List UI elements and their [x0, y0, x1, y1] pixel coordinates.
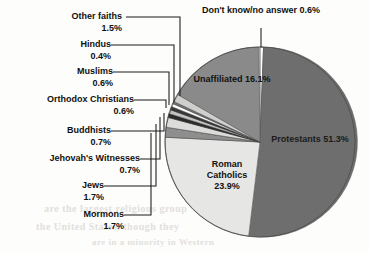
callout-name-buddhists: Buddhists — [67, 125, 111, 135]
pie-chart-figure: are the largest religious group the Unit… — [0, 0, 369, 253]
callout-label-jews: Jews 1.7% — [82, 180, 104, 203]
callout-label-hindus: Hindus 0.4% — [81, 39, 112, 62]
callout-label-buddhists: Buddhists 0.7% — [67, 125, 111, 148]
callout-pct-other-faiths: 1.5% — [71, 23, 122, 35]
leader-line-jehovahs-witnesses — [140, 117, 160, 159]
slice-name-unaffiliated: Unaffiliated — [193, 74, 242, 84]
callout-pct-mormons: 1.7% — [84, 221, 125, 233]
slice-pct-protestants: 51.3% — [323, 134, 349, 144]
callout-name-mormons: Mormons — [84, 209, 125, 219]
callout-name-dont-know: Don't know/no answer — [202, 5, 297, 15]
slice-label-unaffiliated: Unaffiliated 16.1% — [186, 74, 278, 85]
callout-pct-buddhists: 0.7% — [67, 137, 111, 149]
leader-line-other-faiths — [126, 17, 180, 96]
slice-name-roman-catholics-line2: Catholics — [185, 170, 269, 181]
callout-label-mormons: Mormons 1.7% — [84, 209, 125, 232]
slice-name-protestants: Protestants — [271, 134, 321, 144]
callout-name-hindus: Hindus — [81, 39, 112, 49]
callout-name-orthodox-christians: Orthodox Christians — [47, 94, 134, 104]
callout-label-jehovahs-witnesses: Jehovah's Witnesses 0.7% — [49, 153, 140, 176]
leader-line-orthodox-christians — [134, 100, 166, 108]
callout-name-muslims: Muslims — [77, 66, 113, 76]
callout-pct-dont-know: 0.6% — [300, 5, 321, 15]
callout-pct-muslims: 0.6% — [77, 78, 113, 90]
pie-chart-graphic — [0, 0, 369, 253]
slice-pct-unaffiliated: 16.1% — [245, 74, 271, 84]
callout-name-jews: Jews — [82, 180, 104, 190]
slice-label-roman-catholics: Roman Catholics 23.9% — [185, 159, 269, 192]
slice-pct-roman-catholics: 23.9% — [214, 181, 240, 191]
callout-label-other-faiths: Other faiths 1.5% — [71, 11, 122, 34]
callout-pct-jews: 1.7% — [82, 192, 104, 204]
slice-label-protestants: Protestants 51.3% — [268, 134, 352, 145]
callout-label-dont-know: Don't know/no answer 0.6% — [191, 5, 331, 17]
callout-name-other-faiths: Other faiths — [71, 11, 122, 21]
callout-name-jehovahs-witnesses: Jehovah's Witnesses — [49, 153, 140, 163]
callout-label-muslims: Muslims 0.6% — [77, 66, 113, 89]
callout-pct-hindus: 0.4% — [81, 51, 112, 63]
callout-label-orthodox-christians: Orthodox Christians 0.6% — [47, 94, 134, 117]
callout-pct-jehovahs-witnesses: 0.7% — [49, 165, 140, 177]
callout-pct-orthodox-christians: 0.6% — [47, 106, 134, 118]
slice-name-roman-catholics-line1: Roman — [212, 159, 243, 169]
